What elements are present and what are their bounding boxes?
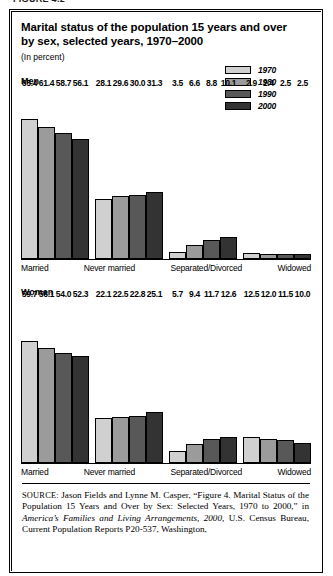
bar: 11.5 bbox=[277, 440, 294, 463]
bar-column: 54.0 bbox=[55, 299, 72, 463]
bar-value-label: 6.6 bbox=[189, 78, 200, 88]
bar-group: 28.129.630.031.3 bbox=[95, 88, 163, 259]
bar: 22.8 bbox=[129, 416, 146, 463]
bar-group: 2.92.42.52.5 bbox=[243, 88, 311, 259]
axis-category-label: Married bbox=[21, 467, 48, 477]
bar-value-label: 52.3 bbox=[73, 289, 88, 299]
bar-value-label: 31.3 bbox=[147, 78, 162, 88]
bar-value-label: 59.7 bbox=[22, 289, 37, 299]
figure-number: FIGURE 4.2 bbox=[13, 0, 65, 2]
bar-plot-women: 59.756.154.052.322.122.522.825.15.79.411… bbox=[21, 299, 311, 464]
source-note: SOURCE: Jason Fields and Lynne M. Casper… bbox=[22, 490, 309, 536]
bar: 2.5 bbox=[277, 254, 294, 259]
panel-women: Women 59.756.154.052.322.122.522.825.15.… bbox=[21, 287, 311, 477]
bar-group: 59.756.154.052.3 bbox=[21, 299, 89, 463]
bar: 2.4 bbox=[260, 254, 277, 259]
bar: 22.1 bbox=[95, 418, 112, 463]
bar: 31.3 bbox=[146, 192, 163, 259]
bar-column: 10.1 bbox=[220, 88, 237, 259]
axis-category-label: Never married bbox=[84, 467, 135, 477]
bar-column: 2.5 bbox=[294, 88, 311, 259]
bar-value-label: 61.4 bbox=[39, 78, 54, 88]
bar-column: 11.7 bbox=[203, 299, 220, 463]
bar-value-label: 22.5 bbox=[113, 289, 128, 299]
bar-value-label: 9.4 bbox=[189, 289, 200, 299]
bar: 65.4 bbox=[21, 119, 38, 259]
bar-plot-men: 65.461.458.756.128.129.630.031.33.56.68.… bbox=[21, 88, 311, 260]
bar: 28.1 bbox=[95, 199, 112, 259]
bar-column: 30.0 bbox=[129, 88, 146, 259]
legend-label: 1970 bbox=[258, 65, 276, 75]
bar-column: 12.6 bbox=[220, 299, 237, 463]
bar: 56.1 bbox=[72, 139, 89, 259]
bar-group: 12.512.011.510.0 bbox=[243, 299, 311, 463]
bar-value-label: 11.5 bbox=[278, 289, 293, 299]
bar-column: 3.5 bbox=[169, 88, 186, 259]
bar-value-label: 12.0 bbox=[261, 289, 276, 299]
bar-value-label: 3.5 bbox=[172, 78, 183, 88]
bar: 22.5 bbox=[112, 417, 129, 463]
bar: 25.1 bbox=[146, 412, 163, 463]
bar-column: 52.3 bbox=[72, 299, 89, 463]
bar-column: 12.0 bbox=[260, 299, 277, 463]
source-divider bbox=[22, 483, 310, 484]
source-publication-title: America’s Families and Living Arrangemen… bbox=[22, 513, 224, 523]
bar: 54.0 bbox=[55, 353, 72, 463]
bar-column: 28.1 bbox=[95, 88, 112, 259]
bar-value-label: 2.5 bbox=[297, 78, 308, 88]
bar: 12.0 bbox=[260, 439, 277, 464]
bar-value-label: 29.6 bbox=[113, 78, 128, 88]
bar-column: 22.5 bbox=[112, 299, 129, 463]
bar-value-label: 22.8 bbox=[130, 289, 145, 299]
bar-group: 65.461.458.756.1 bbox=[21, 88, 89, 259]
source-text-1: Jason Fields and Lynne M. Casper, “Figur… bbox=[22, 490, 309, 511]
bar-value-label: 10.1 bbox=[221, 78, 236, 88]
bar-value-label: 56.1 bbox=[73, 78, 88, 88]
bar: 9.4 bbox=[186, 444, 203, 463]
bar-value-label: 12.6 bbox=[221, 289, 236, 299]
bar: 11.7 bbox=[203, 439, 220, 463]
bar-group: 3.56.68.810.1 bbox=[169, 88, 237, 259]
bar-column: 8.8 bbox=[203, 88, 220, 259]
axis-category-label: Separated/Divorced bbox=[170, 467, 242, 477]
bar-value-label: 30.0 bbox=[130, 78, 145, 88]
axis-labels-men: MarriedNever marriedSeparated/DivorcedWi… bbox=[21, 263, 311, 273]
bar-value-label: 56.1 bbox=[39, 289, 54, 299]
bar-value-label: 22.1 bbox=[96, 289, 111, 299]
bar-value-label: 2.4 bbox=[263, 78, 274, 88]
bar-value-label: 54.0 bbox=[56, 289, 71, 299]
bar-column: 22.1 bbox=[95, 299, 112, 463]
bar-value-label: 2.9 bbox=[246, 78, 257, 88]
bar-value-label: 11.7 bbox=[204, 289, 219, 299]
bar-column: 58.7 bbox=[55, 88, 72, 259]
bar-column: 59.7 bbox=[21, 299, 38, 463]
bar: 61.4 bbox=[38, 127, 55, 259]
axis-category-label: Widowed bbox=[277, 263, 311, 273]
legend-swatch-icon bbox=[225, 66, 251, 74]
bar-value-label: 5.7 bbox=[172, 289, 183, 299]
bar-column: 25.1 bbox=[146, 299, 163, 463]
bar-group: 5.79.411.712.6 bbox=[169, 299, 237, 463]
bar-column: 2.4 bbox=[260, 88, 277, 259]
bar-column: 61.4 bbox=[38, 88, 55, 259]
bar-column: 11.5 bbox=[277, 299, 294, 463]
bar-column: 12.5 bbox=[243, 299, 260, 463]
bar-value-label: 8.8 bbox=[206, 78, 217, 88]
bar-column: 2.9 bbox=[243, 88, 260, 259]
bar-column: 10.0 bbox=[294, 299, 311, 463]
bar-column: 29.6 bbox=[112, 88, 129, 259]
bar: 59.7 bbox=[21, 341, 38, 463]
bar: 8.8 bbox=[203, 240, 220, 259]
page-title: Marital status of the population 15 year… bbox=[21, 20, 301, 48]
bar: 12.5 bbox=[243, 437, 260, 463]
bar: 5.7 bbox=[169, 451, 186, 463]
bar: 30.0 bbox=[129, 195, 146, 259]
bar-value-label: 65.4 bbox=[22, 78, 37, 88]
bar: 52.3 bbox=[72, 356, 89, 463]
bar-value-label: 58.7 bbox=[56, 78, 71, 88]
legend-item: 1970 bbox=[225, 65, 311, 75]
bar-value-label: 25.1 bbox=[147, 289, 162, 299]
bar: 58.7 bbox=[55, 133, 72, 259]
bar-value-label: 2.5 bbox=[280, 78, 291, 88]
bar-column: 31.3 bbox=[146, 88, 163, 259]
